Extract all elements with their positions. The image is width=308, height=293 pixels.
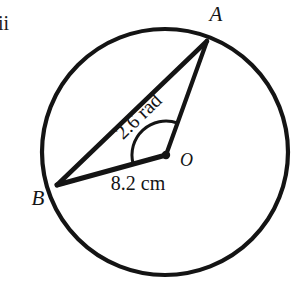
point-label-b: B (32, 186, 45, 210)
length-measure-label: 8.2 cm (111, 172, 166, 194)
geometry-canvas: A B O 2.6 rad 8.2 cm ii (0, 0, 308, 293)
point-label-o: O (180, 150, 193, 170)
geometry-figure: A B O 2.6 rad 8.2 cm ii (0, 0, 308, 293)
figure-background (0, 0, 308, 293)
point-label-a: A (208, 2, 223, 26)
question-number-marker: ii (0, 12, 10, 34)
center-point-dot (162, 151, 170, 159)
